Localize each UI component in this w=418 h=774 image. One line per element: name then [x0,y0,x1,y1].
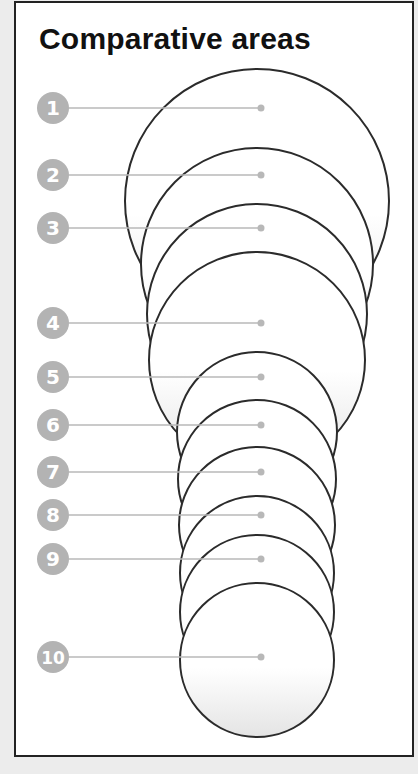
comparative-areas-diagram: 12345678910 [0,0,418,774]
leader-dot-2 [258,172,265,179]
leader-dot-5 [258,374,265,381]
number-badge-9: 9 [37,543,69,575]
number-badge-1: 1 [37,92,69,124]
leader-dot-9 [258,556,265,563]
number-badge-5: 5 [37,361,69,393]
badge-label: 2 [46,163,60,187]
number-badge-10: 10 [37,641,69,673]
badges-group: 12345678910 [37,92,69,673]
badge-label: 7 [46,460,60,484]
badge-label: 5 [46,365,60,389]
number-badge-4: 4 [37,307,69,339]
leader-dot-7 [258,469,265,476]
badge-label: 4 [46,311,60,335]
leader-dot-4 [258,320,265,327]
number-badge-8: 8 [37,499,69,531]
badge-label: 9 [46,547,60,571]
leader-dot-3 [258,225,265,232]
badge-label: 6 [46,413,60,437]
badge-label: 1 [46,96,60,120]
number-badge-6: 6 [37,409,69,441]
badge-label: 3 [46,216,60,240]
area-circle-10 [180,583,334,737]
leader-dot-1 [258,105,265,112]
circles-group [125,69,389,737]
leader-dot-8 [258,512,265,519]
badge-label: 8 [46,503,60,527]
number-badge-3: 3 [37,212,69,244]
leader-dot-10 [258,654,265,661]
number-badge-2: 2 [37,159,69,191]
number-badge-7: 7 [37,456,69,488]
badge-label: 10 [41,648,65,668]
leader-dot-6 [258,422,265,429]
